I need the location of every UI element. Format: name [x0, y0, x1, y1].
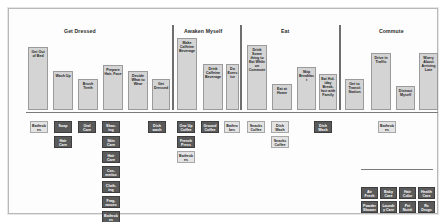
activity-card-skip-breakfast[interactable]: Skip Breakfast — [297, 67, 316, 110]
story-card-one-up-coffee[interactable]: One Up Coffee — [177, 121, 195, 133]
board-canvas[interactable]: Get DressedAwaken MyselfEatCommute Get O… — [8, 8, 438, 214]
activity-card-label: Do Exercise — [228, 67, 238, 79]
story-card-label: Cloth-ing — [104, 184, 119, 192]
divider-awaken-eat — [240, 25, 242, 110]
activity-card-eat-holiday-breakfast-family[interactable]: Eat Hol-iday Break-fast with Family — [319, 74, 337, 110]
activity-card-drink-caffeine-beverage[interactable]: Drink Caffeine Beverage — [203, 64, 223, 110]
activity-card-label: Drive in Traffic — [373, 56, 390, 64]
group-title-get-dressed: Get Dressed — [64, 28, 96, 34]
story-card-pet-nutrition[interactable]: Pet Nutrit — [399, 201, 416, 213]
story-card-bathrobe-4[interactable]: Bathrobes — [177, 151, 195, 163]
activity-card-label: Get to Transit Station — [347, 82, 363, 94]
story-card-baby-care[interactable]: Baby Care — [380, 187, 397, 199]
activity-card-make-caffeine-beverage[interactable]: Make Caffeine Beverage — [177, 38, 197, 110]
story-card-label: Baby Care — [382, 190, 396, 198]
story-card-dish-wash-2[interactable]: Dish Wash — [314, 121, 332, 133]
activity-card-label: Wash Up — [55, 74, 72, 78]
story-card-label: Bathrobes — [32, 124, 47, 132]
activity-card-label: Eat Hol-iday Break-fast with Family — [321, 77, 336, 97]
activity-card-label: Make Caffeine Beverage — [179, 41, 196, 53]
activity-card-prepare-hair-face[interactable]: Prepare Hair, Face — [103, 65, 123, 110]
story-card-bathrobe-1[interactable]: Bathrobes — [30, 121, 48, 133]
activity-card-distract-myself[interactable]: Distract Myself — [396, 86, 415, 110]
story-card-bathrobe-5[interactable]: Bathrobes — [378, 121, 396, 133]
story-card-label: Ground Coffee — [203, 124, 218, 132]
story-card-label: Dish Wash — [273, 124, 288, 132]
story-card-shaving[interactable]: Shav-ing — [102, 121, 120, 133]
activity-card-label: Decide What to Wear — [130, 74, 147, 86]
activity-card-label: Drink Caffeine Beverage — [205, 67, 222, 79]
story-card-label: One Up Coffee — [179, 124, 194, 132]
story-card-label: Bathrobes — [104, 214, 119, 222]
activity-card-get-to-transit-station[interactable]: Get to Transit Station — [345, 79, 364, 110]
story-card-powder-shower[interactable]: Powder Shower — [361, 201, 378, 213]
story-card-air-fresh[interactable]: Air Fresh — [361, 187, 378, 199]
story-card-label: Cos-metics — [104, 169, 119, 177]
activity-card-eat-at-home[interactable]: Eat at Home — [272, 84, 292, 110]
group-title-commute: Commute — [379, 28, 404, 34]
story-card-snacks-coffee-2[interactable]: Snacks Coffee — [271, 136, 289, 148]
activity-card-drink-some-thing-to-eat[interactable]: Drink Some thing to Eat While on Commute — [247, 45, 267, 110]
story-card-hair-care-2[interactable]: Hair Care — [102, 151, 120, 163]
story-card-dish-wash-1[interactable]: Dish Wash — [271, 121, 289, 133]
story-card-soap[interactable]: Soap — [54, 121, 72, 133]
story-card-laundry-care[interactable]: Laundry Care — [380, 201, 397, 213]
activity-card-brush-teeth[interactable]: Brush Teeth — [78, 79, 98, 110]
activity-card-wash-up[interactable]: Wash Up — [53, 71, 73, 110]
story-card-label: Hair Care — [56, 139, 71, 147]
story-card-hair-color[interactable]: Hair Color — [399, 187, 416, 199]
story-card-oral-care[interactable]: Oral Care — [78, 121, 96, 133]
story-card-label: Laundry Care — [382, 204, 396, 212]
story-card-bathrobe-2[interactable]: Bathrobes — [102, 211, 120, 222]
story-card-ground-coffee[interactable]: Ground Coffee — [201, 121, 219, 133]
activity-card-worry-about-arriving-late[interactable]: Worry About Arriving Late — [419, 53, 438, 110]
activity-card-label: Prepare Hair, Face — [105, 68, 122, 76]
story-card-hair-care-1[interactable]: Hair Care — [54, 136, 72, 148]
story-card-label: Skin Care — [104, 139, 119, 147]
story-card-label: Powder Shower — [363, 204, 377, 212]
story-card-label: Bathrobes — [226, 124, 239, 132]
story-card-label: Soap — [56, 124, 71, 128]
story-card-label: Rx Drugs — [420, 204, 434, 212]
activity-card-label: Eat at Home — [274, 87, 291, 95]
story-card-rx-drugs[interactable]: Rx Drugs — [418, 201, 435, 213]
divider-eat-commute — [339, 25, 341, 110]
story-card-skin-care[interactable]: Skin Care — [102, 136, 120, 148]
divider-get-dressed-awaken — [172, 25, 174, 110]
story-card-label: Shav-ing — [104, 124, 119, 132]
story-card-label: Health Care — [420, 190, 434, 198]
story-card-label: Snacks Coffee — [249, 124, 264, 132]
story-card-label: Frag-rances — [104, 199, 119, 207]
story-card-snacks-coffee-1[interactable]: Snacks Coffee — [247, 121, 265, 133]
group-title-eat: Eat — [281, 28, 289, 34]
story-card-cosmetics[interactable]: Cos-metics — [102, 166, 120, 178]
activity-card-drive-in-traffic[interactable]: Drive in Traffic — [371, 53, 391, 110]
story-card-label: Dish wash — [150, 124, 165, 132]
story-card-label: Pet Nutrit — [401, 204, 415, 212]
activity-card-label: Brush Teeth — [80, 82, 97, 90]
story-card-label: Hair Color — [401, 190, 415, 198]
story-card-bathrobe-3[interactable]: Bathrobes — [224, 121, 240, 133]
story-card-health-care[interactable]: Health Care — [418, 187, 435, 199]
activity-card-decide-what-to-wear[interactable]: Decide What to Wear — [128, 71, 148, 110]
story-card-label: Bathrobes — [179, 154, 194, 162]
story-map-board: Get DressedAwaken MyselfEatCommute Get O… — [0, 0, 446, 222]
activity-card-get-out-of-bed[interactable]: Get Out of Bed — [28, 47, 48, 110]
story-card-label: Hair Care — [104, 154, 119, 162]
activity-card-label: Skip Breakfast — [299, 70, 315, 82]
divider-lower-band — [361, 169, 433, 170]
group-title-awaken-myself: Awaken Myself — [184, 28, 222, 34]
story-card-label: Dish Wash — [316, 124, 331, 132]
activity-card-label: Worry About Arriving Late — [421, 56, 437, 72]
story-card-label: French Press — [179, 139, 194, 147]
story-card-dish-wash-left[interactable]: Dish wash — [148, 121, 166, 133]
story-card-label: Bathrobes — [380, 124, 395, 132]
activity-card-label: Get Dressed — [154, 82, 169, 90]
story-card-fragrances[interactable]: Frag-rances — [102, 196, 120, 208]
story-card-french-press[interactable]: French Press — [177, 136, 195, 148]
divider-activity-band — [26, 112, 438, 113]
activity-card-get-dressed-card[interactable]: Get Dressed — [152, 79, 170, 110]
activity-card-label: Drink Some thing to Eat While on Commute — [249, 48, 266, 73]
story-card-clothing[interactable]: Cloth-ing — [102, 181, 120, 193]
activity-card-do-exercise[interactable]: Do Exercise — [226, 64, 239, 110]
